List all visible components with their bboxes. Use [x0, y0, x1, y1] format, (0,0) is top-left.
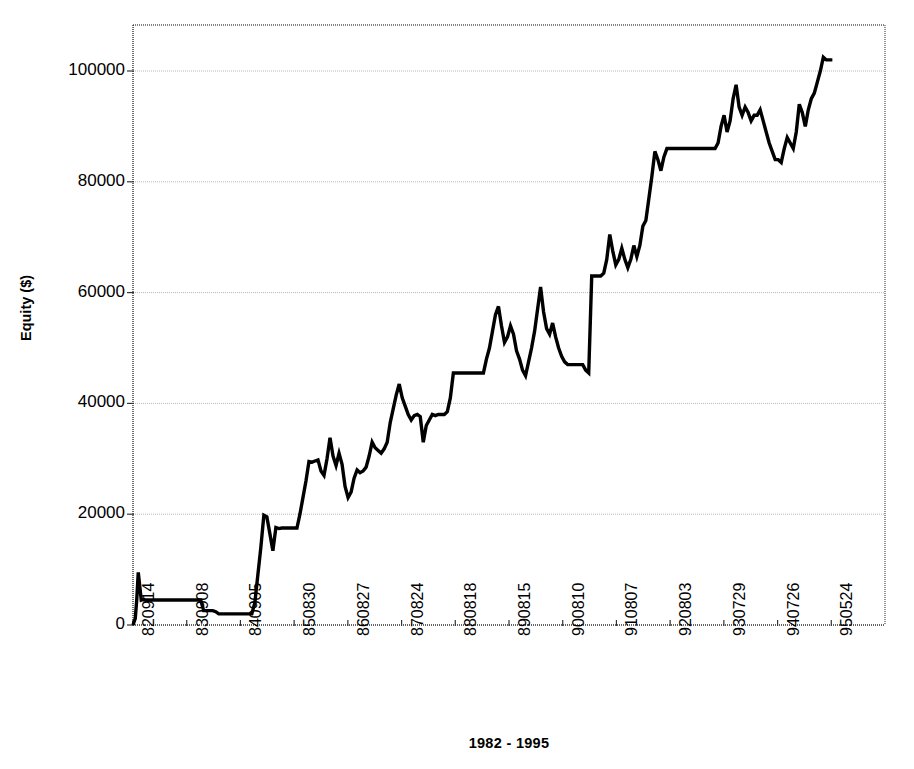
x-tick-label: 860827: [355, 546, 373, 636]
x-tick-label: 890815: [516, 546, 534, 636]
x-tick-label: 850830: [301, 546, 319, 636]
x-axis-title: 1982 - 1995: [133, 735, 885, 751]
x-axis-tick-labels: 8209148309088409058508308608278708248808…: [0, 0, 914, 769]
equity-chart: Zum Handelsschluß Equity ($) 02000040000…: [0, 0, 914, 769]
x-tick-label: 840905: [247, 546, 265, 636]
x-tick-label: 820914: [140, 546, 158, 636]
x-tick-label: 910807: [623, 546, 641, 636]
x-tick-label: 870824: [409, 546, 427, 636]
x-tick-label: 940726: [785, 546, 803, 636]
x-tick-label: 950524: [838, 546, 856, 636]
x-tick-label: 930729: [731, 546, 749, 636]
x-tick-label: 880818: [462, 546, 480, 636]
x-tick-label: 900810: [570, 546, 588, 636]
x-tick-label: 920803: [677, 546, 695, 636]
x-tick-label: 830908: [194, 546, 212, 636]
